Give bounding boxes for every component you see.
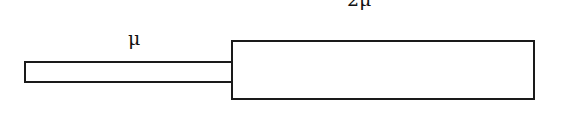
thin-segment xyxy=(24,61,233,83)
label-thin-density: μ xyxy=(128,29,140,48)
thick-segment xyxy=(231,40,535,100)
label-thick-density: 2μ xyxy=(347,0,371,9)
